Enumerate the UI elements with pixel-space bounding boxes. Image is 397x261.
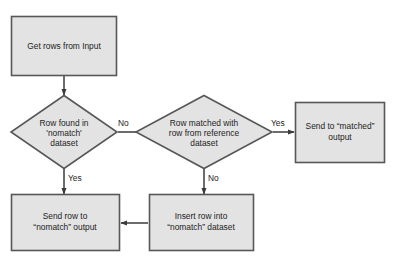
node-insert-nomatch-line-0: Insert row into (175, 211, 228, 221)
node-get-rows[interactable]: Get rows from Input (12, 17, 117, 76)
node-row-found-nomatch-line-2: dataset (50, 138, 78, 148)
node-get-rows-line-0: Get rows from Input (27, 41, 101, 51)
edge-label-row-found-no: No (118, 118, 129, 128)
node-row-found-nomatch[interactable]: Row found in 'nomatch' dataset (11, 96, 117, 169)
node-send-nomatch[interactable]: Send row to “nomatch” output (12, 195, 120, 251)
edge-label-row-found-yes: Yes (68, 173, 82, 183)
node-row-found-nomatch-line-0: Row found in (40, 118, 89, 128)
node-send-nomatch-line-1: “nomatch” output (33, 222, 97, 232)
node-row-found-nomatch-line-1: 'nomatch' (46, 128, 82, 138)
edge-label-row-matched-no: No (208, 173, 219, 183)
node-send-matched-line-1: output (328, 132, 352, 142)
node-send-matched-line-0: Send to “matched” (306, 121, 375, 131)
node-row-matched-reference[interactable]: Row matched with row from reference data… (136, 96, 272, 169)
node-insert-nomatch-line-1: “nomatch” dataset (167, 222, 235, 232)
node-insert-nomatch[interactable]: Insert row into “nomatch” dataset (150, 195, 254, 251)
edge-label-row-matched-yes: Yes (271, 118, 285, 128)
flowchart-diagram: Get rows from Input Row found in 'nomatc… (0, 0, 397, 261)
node-row-matched-reference-line-2: dataset (190, 138, 218, 148)
flowchart-canvas: Get rows from Input Row found in 'nomatc… (0, 0, 397, 261)
node-row-matched-reference-line-1: row from reference (169, 128, 240, 138)
node-send-matched[interactable]: Send to “matched” output (296, 103, 385, 163)
node-row-matched-reference-line-0: Row matched with (170, 118, 239, 128)
node-send-nomatch-line-0: Send row to (43, 211, 88, 221)
